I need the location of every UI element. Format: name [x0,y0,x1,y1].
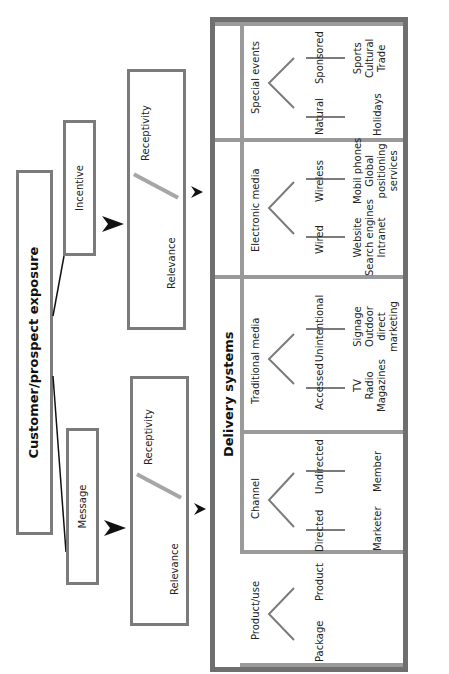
subcategory-label: Product [314,563,326,601]
subcategory-items: Website Search engines Intranet [352,199,388,276]
category-title: Product/use [250,581,262,640]
subcategory-label: Undirected [314,439,326,494]
subcategory-label: Accessed [314,363,326,410]
subcategory-label: Wired [314,225,326,254]
category-title: Channel [250,478,262,519]
subcategory-items: Sports Cultural Trade [352,39,388,78]
subcategory-label: Sponsored [314,31,326,84]
subcategory-label: Unintentional [314,295,326,362]
subcategory-items: Holidays [372,93,384,136]
subcategory-label: Wireless [314,160,326,202]
diagram-canvas: Customer/prospect exposure Message Incen… [0,0,449,674]
subcategory-items: TV Radio Magazines [352,359,388,412]
subcategory-label: Directed [314,510,326,552]
category-title: Special events [250,41,262,114]
subcategory-label: Package [314,621,326,662]
subcategory-label: Natural [314,98,326,135]
category-title: Electronic media [250,168,262,252]
subcategory-items: Member [372,451,384,492]
subcategory-items: Mobil phones Global positioning services [352,138,400,204]
subcategory-items: Marketer [372,506,384,551]
category-title: Traditional media [250,318,262,404]
subcategory-items: Signage Outdoor direct marketing [352,301,400,352]
